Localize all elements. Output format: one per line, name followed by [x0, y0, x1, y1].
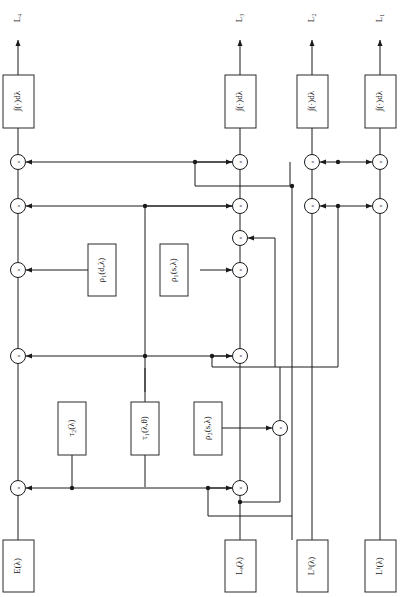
transfer-blocks: ρ₁(d,λ) ρ₁(s,λ) τ₂(λ) τ₁(λ,θ) ρ₂(s,λ)	[58, 244, 222, 455]
source-box-Lb: Lᵇ(λ)	[297, 540, 328, 592]
block-label: τ₁(λ,θ)	[139, 416, 149, 440]
block-tau2: τ₂(λ)	[58, 402, 86, 455]
multiplier-symbol: ×	[16, 486, 22, 489]
figure-canvas: × × × × × × × × × × × × × × × × ∫(·)dλ	[0, 0, 410, 597]
multiplier-node: ×	[11, 263, 26, 278]
multiplier-node: ×	[233, 481, 248, 496]
source-label: Lᶠ(λ)	[374, 557, 384, 575]
source-box-Lf: Lᶠ(λ)	[365, 540, 396, 592]
output-label-L3: L₃	[234, 14, 244, 23]
multiplier-node: ×	[273, 421, 288, 436]
multiplier-node: ×	[11, 155, 26, 170]
integrator-label: ∫(·)dλ	[12, 90, 23, 112]
multiplier-symbol: ×	[310, 204, 316, 207]
integrator-boxes: ∫(·)dλ ∫(·)dλ ∫(·)dλ ∫(·)dλ	[3, 75, 396, 128]
multiplier-node: ×	[373, 155, 388, 170]
block-label: τ₂(λ)	[66, 419, 76, 436]
multiplier-symbol: ×	[238, 160, 244, 163]
multiplier-node: ×	[233, 263, 248, 278]
block-tau1: τ₁(λ,θ)	[131, 402, 159, 455]
junction-dot	[206, 486, 210, 490]
block-rho1-s: ρ₁(s,λ)	[160, 244, 188, 296]
multiplier-node: ×	[305, 199, 320, 214]
block-label: ρ₂(s,λ)	[202, 416, 212, 440]
multiplier-symbol: ×	[16, 268, 22, 271]
multiplier-symbol: ×	[238, 486, 244, 489]
junction-dot	[290, 184, 294, 188]
multiplier-node: ×	[11, 349, 26, 364]
junction-dot	[70, 486, 74, 490]
integrator-label: ∫(·)dλ	[234, 90, 245, 112]
multiplier-node: ×	[233, 349, 248, 364]
integrator-box: ∫(·)dλ	[3, 75, 34, 128]
multiplier-symbol: ×	[16, 354, 22, 357]
junction-dot	[193, 160, 197, 164]
multiplier-node: ×	[373, 199, 388, 214]
source-box-Le: Lₑ(λ)	[225, 540, 256, 592]
multiplier-node: ×	[11, 481, 26, 496]
source-boxes: E(λ) Lₑ(λ) Lᵇ(λ) Lᶠ(λ)	[3, 540, 396, 592]
multiplier-symbol: ×	[16, 160, 22, 163]
source-box-E: E(λ)	[3, 540, 34, 592]
junction-dot	[336, 204, 340, 208]
output-label-L2: L₂	[306, 14, 316, 23]
integrator-label: ∫(·)dλ	[374, 90, 385, 112]
multiplier-node: ×	[305, 155, 320, 170]
output-label-L1: L₁	[374, 14, 384, 23]
multiplier-symbol: ×	[378, 160, 384, 163]
multiplier-symbol: ×	[238, 204, 244, 207]
source-label: Lᵇ(λ)	[306, 557, 316, 576]
source-label: E(λ)	[12, 558, 22, 574]
block-label: ρ₁(d,λ)	[96, 258, 106, 283]
multiplier-node: ×	[233, 231, 248, 246]
output-labels: L₄ L₃ L₂ L₁	[12, 14, 384, 23]
multiplier-symbol: ×	[310, 160, 316, 163]
multiplier-symbol: ×	[238, 354, 244, 357]
block-rho1-d: ρ₁(d,λ)	[88, 244, 116, 296]
block-diagram-svg: × × × × × × × × × × × × × × × × ∫(·)dλ	[0, 0, 410, 597]
multiplier-node: ×	[11, 199, 26, 214]
output-label-L4: L₄	[12, 14, 22, 23]
multiplier-symbol: ×	[238, 268, 244, 271]
junction-dot	[336, 160, 340, 164]
integrator-label: ∫(·)dλ	[306, 90, 317, 112]
junction-dot	[238, 500, 242, 504]
junction-dot	[143, 354, 147, 358]
multiplier-symbol: ×	[378, 204, 384, 207]
integrator-box: ∫(·)dλ	[297, 75, 328, 128]
block-rho2-s: ρ₂(s,λ)	[194, 402, 222, 455]
multiplier-node: ×	[233, 155, 248, 170]
multiplier-symbol: ×	[238, 236, 244, 239]
integrator-box: ∫(·)dλ	[225, 75, 256, 128]
integrator-box: ∫(·)dλ	[365, 75, 396, 128]
multiplier-node: ×	[233, 199, 248, 214]
multiplier-symbol: ×	[16, 204, 22, 207]
block-label: ρ₁(s,λ)	[168, 258, 178, 282]
junction-dot	[143, 204, 147, 208]
junction-dot	[210, 354, 214, 358]
multiplier-symbol: ×	[278, 426, 284, 429]
source-label: Lₑ(λ)	[234, 557, 244, 575]
